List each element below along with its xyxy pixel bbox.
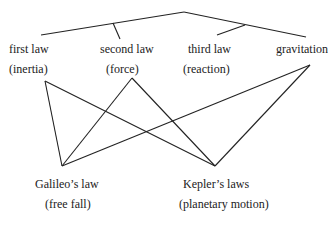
- node-galileo-sub: (free fall): [45, 197, 91, 211]
- node-third-law-title: third law: [188, 42, 231, 56]
- node-second-law-sub: (force): [106, 62, 139, 76]
- node-kepler-sub: (planetary motion): [179, 197, 269, 211]
- node-first-law-sub: (inertia): [9, 62, 48, 76]
- node-kepler-title: Kepler’s laws: [183, 177, 249, 191]
- node-first-law-title: first law: [9, 42, 49, 56]
- node-galileo-title: Galileo’s law: [35, 177, 99, 191]
- node-second-law-title: second law: [100, 42, 154, 56]
- node-third-law-sub: (reaction): [183, 62, 230, 76]
- node-gravitation-title: gravitation: [276, 42, 328, 56]
